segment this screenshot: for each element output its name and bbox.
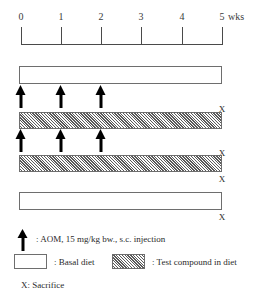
legend-basal-swatch xyxy=(14,254,47,269)
legend-aom-arrow-icon xyxy=(18,229,29,251)
legend-aom-label: : AOM, 15 mg/kg bw., s.c. injection xyxy=(36,234,165,245)
legend-sacrifice-label: X: Sacrifice xyxy=(21,280,64,291)
arrow-stem xyxy=(20,138,23,152)
axis-baseline xyxy=(21,44,222,45)
group-1-aom-arrow-week-2 xyxy=(96,85,107,108)
group-1-aom-arrow-week-0 xyxy=(16,85,27,108)
axis-label-3: 3 xyxy=(139,11,144,23)
arrow-stem xyxy=(60,94,63,108)
group-2-diet-bar xyxy=(19,112,222,129)
axis-tick-5 xyxy=(222,27,223,45)
axis-tick-2 xyxy=(101,27,102,45)
legend-compound-swatch xyxy=(112,254,145,269)
arrow-stem xyxy=(100,94,103,108)
group-1-diet-bar xyxy=(19,66,222,84)
legend-compound-label: : Test compound in diet xyxy=(152,257,237,268)
arrow-stem xyxy=(100,138,103,152)
arrow-stem xyxy=(22,237,25,251)
axis-tick-4 xyxy=(182,27,183,45)
axis-label-4: 4 xyxy=(180,11,185,23)
arrow-stem xyxy=(60,138,63,152)
axis-tick-3 xyxy=(141,27,142,45)
group-4-sacrifice-mark: X xyxy=(219,212,226,222)
group-2-aom-arrow-week-2 xyxy=(96,129,107,152)
axis-units-label: wks xyxy=(228,11,244,23)
legend-row-diets: : Basal diet : Test compound in diet xyxy=(0,254,260,274)
arrow-stem xyxy=(20,94,23,108)
axis-tick-1 xyxy=(61,27,62,45)
group-2-aom-arrow-week-1 xyxy=(56,129,67,152)
group-3-diet-bar xyxy=(19,155,222,172)
axis-tick-0 xyxy=(21,27,22,45)
axis-label-5: 5 xyxy=(220,11,225,23)
legend-row-aom: : AOM, 15 mg/kg bw., s.c. injection xyxy=(0,228,260,252)
axis-label-0: 0 xyxy=(19,11,24,23)
group-1-aom-arrow-week-1 xyxy=(56,85,67,108)
timeline-axis: 0 1 2 3 4 5 wks xyxy=(0,0,260,56)
group-2-aom-arrow-week-0 xyxy=(16,129,27,152)
axis-label-1: 1 xyxy=(59,11,64,23)
experimental-design-diagram: 0 1 2 3 4 5 wks X X X X : AOM, 15 mg/kg … xyxy=(0,0,260,300)
group-4-diet-bar xyxy=(19,192,222,210)
axis-label-2: 2 xyxy=(99,11,104,23)
group-3-sacrifice-mark: X xyxy=(219,174,226,184)
legend: : AOM, 15 mg/kg bw., s.c. injection : Ba… xyxy=(0,228,260,300)
legend-basal-label: : Basal diet xyxy=(54,257,95,268)
legend-row-sacrifice: X: Sacrifice xyxy=(0,280,260,296)
